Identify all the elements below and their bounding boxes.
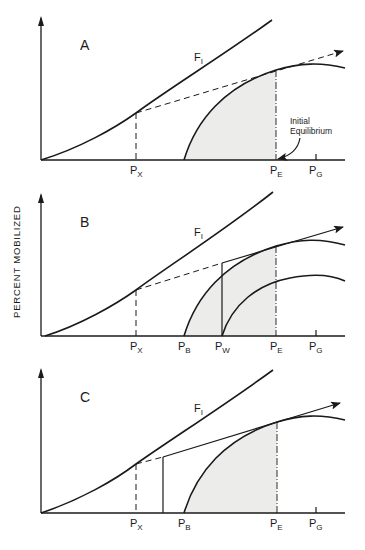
tick-label-pw: PW xyxy=(215,340,230,355)
shaded-area xyxy=(184,246,276,336)
annotation-pointer xyxy=(278,138,300,159)
tick-label-pg: PG xyxy=(309,164,323,179)
shaded-area xyxy=(184,422,277,513)
mobilization-diagram: PERCENT MOBILIZED Initial Equilibrium A … xyxy=(0,0,365,550)
panel-a: Initial Equilibrium A FI PX PE PG xyxy=(38,16,345,179)
panel-label: A xyxy=(80,37,90,53)
tick-label-pe: PE xyxy=(270,164,283,179)
tick-label-pg: PG xyxy=(309,517,323,532)
panel-label: B xyxy=(80,214,89,230)
tick-label-px: PX xyxy=(130,164,143,179)
fi-label: FI xyxy=(194,402,203,417)
dashed-trajectory xyxy=(136,263,222,290)
y-axis-arrow-icon xyxy=(38,368,44,378)
y-axis-label: PERCENT MOBILIZED xyxy=(11,205,22,318)
tick-label-pb: PB xyxy=(178,340,191,355)
panel-label: C xyxy=(80,389,90,405)
fi-label: FI xyxy=(194,226,203,241)
tick-label-pe: PE xyxy=(270,340,283,355)
tick-label-px: PX xyxy=(130,340,143,355)
annotation-initial: Initial xyxy=(290,116,310,126)
tick-label-px: PX xyxy=(130,517,143,532)
fi-label: FI xyxy=(194,51,203,66)
annotation-equilibrium: Equilibrium xyxy=(290,126,332,136)
panel-b: B FI PX PB PW PE PG xyxy=(38,192,345,355)
panel-c: C FI PX PB PE PG xyxy=(38,368,345,532)
y-axis-arrow-icon xyxy=(38,16,44,26)
tick-label-pb: PB xyxy=(178,517,191,532)
tick-label-pg: PG xyxy=(309,340,323,355)
tick-label-pe: PE xyxy=(270,517,283,532)
y-axis-arrow-icon xyxy=(38,193,44,203)
shaded-area xyxy=(184,70,276,160)
